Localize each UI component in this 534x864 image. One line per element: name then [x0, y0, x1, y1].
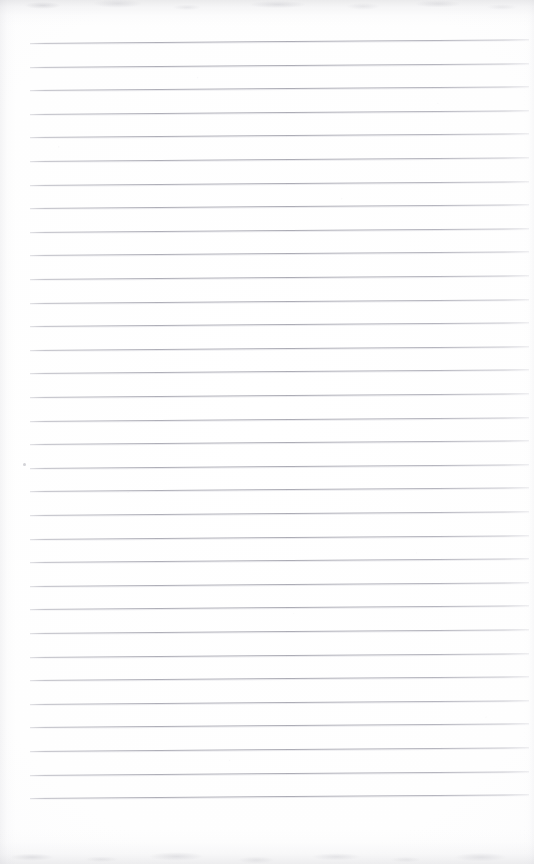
- rule-line: [30, 205, 529, 210]
- rule-line: [30, 535, 529, 540]
- rule-line: [30, 441, 529, 446]
- rule-line: [30, 511, 529, 516]
- rule-line: [30, 559, 529, 564]
- rule-line: [30, 299, 529, 304]
- scan-edge-shadow-left: [0, 0, 16, 864]
- rule-line: [30, 582, 529, 587]
- rule-line: [30, 134, 529, 139]
- rule-line: [30, 771, 529, 776]
- rule-line: [30, 252, 529, 257]
- rule-line: [30, 393, 529, 398]
- scanned-page: [0, 0, 534, 864]
- rule-line: [30, 63, 529, 68]
- rule-line: [30, 747, 529, 752]
- rule-line: [30, 606, 529, 611]
- rule-line: [30, 228, 529, 233]
- rule-line: [30, 346, 529, 351]
- rule-line: [30, 653, 529, 658]
- ruled-lines-layer: [0, 0, 534, 864]
- scan-edge-shadow-right: [524, 0, 534, 864]
- rule-line: [30, 181, 529, 186]
- rule-line: [30, 488, 529, 493]
- rule-line: [30, 629, 529, 634]
- scan-edge-shadow-top: [0, 0, 534, 26]
- rule-line: [30, 724, 529, 729]
- rule-line: [30, 110, 529, 115]
- rule-line: [30, 795, 529, 800]
- rule-line: [30, 39, 529, 44]
- rule-line: [30, 87, 529, 92]
- rule-line: [30, 417, 529, 422]
- paper-speck: [23, 463, 26, 466]
- rule-line: [30, 275, 529, 280]
- rule-line: [30, 370, 529, 375]
- rule-line: [30, 700, 529, 705]
- rule-line: [30, 157, 529, 162]
- rule-line: [30, 323, 529, 328]
- rule-line: [30, 464, 529, 469]
- scan-edge-shadow-bottom: [0, 830, 534, 864]
- rule-line: [30, 677, 529, 682]
